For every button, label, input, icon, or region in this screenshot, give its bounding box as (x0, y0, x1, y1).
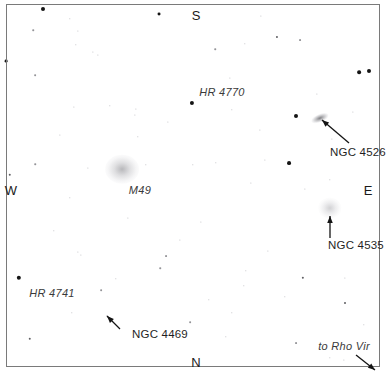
label-hr-4741: HR 4741 (29, 287, 75, 299)
cardinal-east: E (364, 183, 373, 198)
label-m49: M49 (129, 184, 151, 196)
label-ngc-4469: NGC 4469 (132, 328, 188, 340)
label-ngc-4526: NGC 4526 (330, 146, 386, 158)
label-ngc-4535: NGC 4535 (328, 239, 384, 251)
star-chart: HR 4770 M49 HR 4741 NGC 4526 NGC 4535 NG… (0, 0, 386, 377)
label-to-rho-vir: to Rho Vir (318, 340, 370, 352)
annotation-arrows (0, 0, 386, 377)
cardinal-west: W (5, 183, 17, 198)
cardinal-north: N (191, 355, 200, 370)
label-hr-4770: HR 4770 (199, 86, 245, 98)
cardinal-south: S (192, 8, 201, 23)
